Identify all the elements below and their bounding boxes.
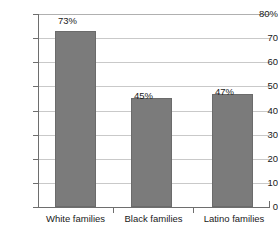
y-tick-label-0: 0 bbox=[246, 202, 278, 212]
y-tick-label-40: 40 bbox=[246, 106, 278, 116]
y-tick-label-10: 10 bbox=[246, 178, 278, 188]
y-tick-label-80: 80% bbox=[246, 9, 278, 19]
bar-white-families[interactable] bbox=[55, 31, 96, 207]
y-tick-30 bbox=[33, 135, 39, 136]
y-tick-70 bbox=[33, 38, 39, 39]
bar-black-families[interactable] bbox=[131, 98, 172, 207]
x-label-white-families: White families bbox=[38, 214, 113, 224]
y-tick-10 bbox=[33, 183, 39, 184]
x-label-latino-families: Latino families bbox=[194, 214, 274, 224]
y-tick-20 bbox=[33, 159, 39, 160]
bar-value-black-families: 45% bbox=[121, 91, 166, 101]
plot-area bbox=[38, 14, 270, 207]
bar-value-white-families: 73% bbox=[45, 16, 90, 26]
y-tick-label-60: 60 bbox=[246, 57, 278, 67]
x-tick-separator-1 bbox=[113, 208, 114, 213]
x-tick-separator-2 bbox=[193, 208, 194, 213]
y-tick-0 bbox=[33, 207, 39, 208]
x-axis-line bbox=[38, 207, 270, 208]
y-tick-label-30: 30 bbox=[246, 130, 278, 140]
y-tick-60 bbox=[33, 62, 39, 63]
y-tick-40 bbox=[33, 111, 39, 112]
y-tick-label-20: 20 bbox=[246, 154, 278, 164]
y-tick-label-50: 50 bbox=[246, 81, 278, 91]
bar-value-latino-families: 47% bbox=[202, 87, 247, 97]
y-tick-50 bbox=[33, 86, 39, 87]
y-tick-label-70: 70 bbox=[246, 33, 278, 43]
x-label-black-families: Black families bbox=[114, 214, 193, 224]
y-tick-80 bbox=[33, 14, 39, 15]
bar-chart: 80% 70 60 50 40 30 20 10 0 73% 45% 47% W… bbox=[0, 0, 278, 236]
